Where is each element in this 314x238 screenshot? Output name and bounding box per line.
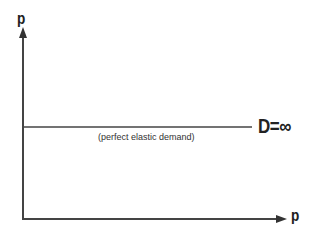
y-axis xyxy=(19,27,27,219)
y-axis-label: p xyxy=(17,9,25,29)
x-axis-arrow-icon xyxy=(276,215,287,223)
elasticity-annotation: (perfect elastic demand) xyxy=(98,132,195,142)
x-axis-label: p xyxy=(291,206,299,226)
demand-label: D=∞ xyxy=(258,115,291,138)
x-axis xyxy=(22,215,287,223)
